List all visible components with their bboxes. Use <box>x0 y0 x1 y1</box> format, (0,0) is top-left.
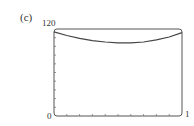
plot-frame <box>54 29 182 116</box>
data-curve <box>54 32 182 43</box>
axis-ticks <box>54 38 169 116</box>
plot-area <box>0 0 194 126</box>
